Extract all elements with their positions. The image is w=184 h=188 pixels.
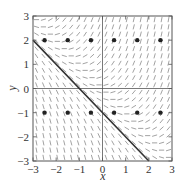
field-dash — [49, 83, 51, 88]
field-dash — [104, 119, 107, 123]
field-dash — [83, 62, 88, 63]
field-dash — [140, 39, 141, 44]
y-tick-label: 0 — [24, 83, 30, 95]
field-dash — [146, 90, 149, 95]
field-dash — [69, 62, 74, 63]
field-dash — [56, 75, 59, 79]
slope-field-chart: −3−2−10123 −3−2−10123 x y — [0, 0, 184, 188]
field-dash — [105, 148, 107, 153]
field-dash — [36, 90, 38, 95]
field-dash — [161, 75, 163, 80]
field-dash — [168, 32, 169, 37]
field-dash — [138, 142, 142, 145]
field-dash — [168, 46, 169, 51]
field-dash — [119, 24, 121, 29]
field-dash — [62, 33, 66, 36]
field-dash — [168, 17, 169, 22]
field-dash — [139, 105, 143, 108]
field-dash — [84, 119, 86, 124]
field-dash — [111, 126, 114, 130]
field-dash — [105, 54, 108, 58]
field-dash — [154, 32, 155, 37]
field-dash — [147, 24, 148, 29]
field-dash — [36, 119, 37, 124]
field-dash — [145, 128, 150, 129]
field-dash — [91, 17, 93, 22]
field-dash — [36, 140, 37, 145]
field-dash — [77, 32, 80, 36]
field-dash — [161, 61, 162, 66]
field-dash — [132, 83, 135, 87]
field-dash — [63, 104, 65, 109]
x-tick-label: −1 — [73, 163, 85, 175]
field-dash — [64, 133, 65, 138]
field-dash — [70, 133, 72, 138]
field-dash — [146, 105, 149, 109]
field-dash — [154, 39, 155, 44]
field-dash — [56, 97, 58, 102]
field-dash — [91, 140, 93, 145]
field-dash — [43, 148, 44, 153]
field-dash — [91, 126, 93, 131]
field-dash — [119, 32, 121, 37]
field-dash — [62, 55, 67, 56]
field-dash — [91, 119, 94, 124]
y-tick-label: −2 — [17, 131, 29, 143]
field-dash — [41, 33, 46, 34]
field-dash — [166, 149, 171, 150]
field-dash — [98, 148, 100, 153]
field-dash — [154, 68, 156, 73]
field-dash — [112, 141, 115, 146]
field-dash — [168, 39, 169, 44]
field-dash — [126, 17, 127, 22]
field-dash — [50, 140, 51, 145]
field-dash — [105, 155, 107, 160]
field-dash — [112, 24, 114, 29]
field-dash — [161, 82, 163, 87]
field-dash — [119, 46, 121, 51]
field-dash — [154, 53, 155, 58]
field-dash — [77, 119, 79, 124]
field-dash — [103, 84, 108, 85]
x-tick-label: 1 — [123, 163, 129, 175]
field-dash — [133, 53, 135, 58]
field-dash — [36, 126, 37, 131]
field-dash — [168, 68, 169, 73]
field-dash — [168, 53, 169, 58]
field-dash — [154, 75, 156, 80]
field-dash — [145, 149, 149, 152]
field-dash — [97, 77, 102, 78]
field-dash — [57, 111, 59, 116]
field-dash — [152, 135, 157, 136]
field-dash — [119, 155, 121, 160]
field-dash — [105, 46, 108, 51]
field-dash — [57, 126, 58, 131]
field-dash — [111, 68, 114, 72]
field-dash — [70, 17, 73, 21]
field-dash — [91, 32, 94, 37]
marked-point — [135, 110, 139, 114]
field-dash — [131, 128, 136, 129]
field-dash — [112, 32, 114, 37]
field-dash — [105, 126, 108, 130]
field-dash — [159, 157, 164, 158]
field-dash — [63, 111, 65, 116]
field-dash — [140, 46, 142, 51]
field-dash — [168, 82, 170, 87]
field-dash — [63, 18, 66, 22]
field-dash — [152, 156, 156, 159]
field-dash — [105, 39, 107, 44]
field-dash — [168, 97, 170, 102]
field-dash — [161, 90, 163, 95]
field-dash — [168, 61, 169, 66]
field-dash — [153, 97, 156, 102]
field-dash — [105, 141, 107, 146]
field-dash — [70, 25, 73, 29]
field-dash — [70, 83, 73, 87]
field-dash — [145, 142, 150, 143]
field-dash — [77, 112, 79, 117]
field-dash — [161, 53, 162, 58]
field-dash — [64, 126, 66, 131]
field-dash — [153, 104, 156, 108]
field-dash — [43, 126, 44, 131]
